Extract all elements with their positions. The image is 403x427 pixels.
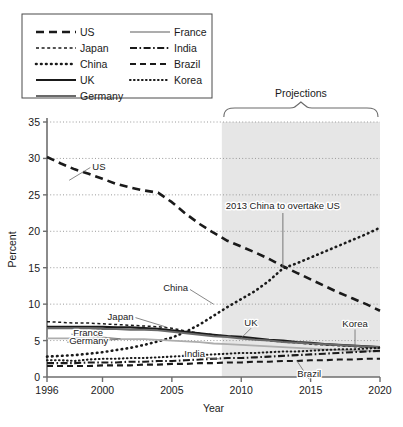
y-axis-title: Percent xyxy=(6,231,18,267)
y-tick-label: 30 xyxy=(28,152,40,164)
y-tick-label: 10 xyxy=(28,298,40,310)
series-label-india: India xyxy=(184,348,205,359)
projections-brace xyxy=(224,102,378,117)
series-label-france: France xyxy=(73,327,103,338)
x-tick-label: 2010 xyxy=(230,384,254,396)
series-label-brazil: Brazil xyxy=(297,368,321,379)
series-label-china: China xyxy=(163,282,189,293)
x-axis-title: Year xyxy=(203,402,225,414)
y-tick-label: 35 xyxy=(28,116,40,128)
x-tick-label: 1996 xyxy=(35,384,59,396)
y-tick-label: 25 xyxy=(28,189,40,201)
series-label-us: US xyxy=(92,161,105,172)
x-tick-label: 2015 xyxy=(299,384,323,396)
plot-layer: 05101520253035199620002005201020152020Ye… xyxy=(0,0,403,427)
y-tick-label: 20 xyxy=(28,225,40,237)
brace-path xyxy=(224,102,378,117)
series-label-uk: UK xyxy=(244,317,258,328)
projections-label: Projections xyxy=(275,87,327,99)
x-tick-label: 2000 xyxy=(91,384,115,396)
y-tick-label: 5 xyxy=(34,335,40,347)
series-label-korea: Korea xyxy=(342,318,368,329)
y-tick-label: 0 xyxy=(34,371,40,383)
label-leader-china xyxy=(190,289,213,304)
label-leader-japan xyxy=(136,318,167,327)
annotation-text: 2013 China to overtake US xyxy=(226,200,340,211)
x-tick-label: 2005 xyxy=(160,384,184,396)
x-tick-label: 2020 xyxy=(368,384,392,396)
y-tick-label: 15 xyxy=(28,262,40,274)
figure-root: USFranceJapanIndiaChinaBrazilUKKoreaGerm… xyxy=(0,0,403,427)
series-label-japan: Japan xyxy=(108,311,134,322)
